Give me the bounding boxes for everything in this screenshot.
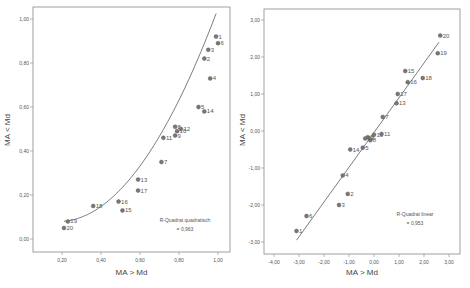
x-tick-label: 3,00 [444, 259, 454, 265]
point-label: 12 [183, 126, 190, 132]
point-label: 7 [385, 114, 389, 120]
x-tick-label: 1,00 [394, 259, 404, 265]
data-point [406, 80, 410, 84]
chart-1: 0,200,400,600,801,000,000,200,400,600,80… [3, 7, 230, 277]
data-point [346, 192, 350, 196]
x-tick-label: 0,40 [96, 257, 106, 263]
point-label: 3 [342, 202, 346, 208]
point-label: 18 [96, 203, 103, 209]
x-tick-label: 0,00 [369, 259, 379, 265]
point-label: 1 [299, 228, 303, 234]
y-tick-label: 0,40 [19, 148, 29, 154]
r-squared-label: R-Quadrat linear [397, 211, 434, 217]
point-label: 12 [368, 135, 375, 141]
data-point [337, 203, 341, 207]
x-axis-label: MA > Md [346, 268, 378, 277]
r-squared-label: R-Quadrat quadratisch [160, 217, 211, 223]
point-label: 7 [164, 159, 168, 165]
point-label: 5 [365, 145, 369, 151]
r-squared-value: = 0,953 [407, 220, 424, 226]
y-tick-label: 0,00 [250, 128, 260, 134]
point-label: 2 [350, 191, 354, 197]
data-point [206, 48, 210, 52]
x-tick-label: -2,00 [318, 259, 330, 265]
data-point [173, 134, 177, 138]
data-point [363, 136, 367, 140]
r-squared-value: = 0,963 [177, 226, 194, 232]
x-axis-label: MA > Md [116, 268, 148, 277]
point-label: 4 [345, 172, 349, 178]
point-label: 2 [207, 56, 211, 62]
data-point [117, 200, 121, 204]
y-tick-label: -1,00 [249, 165, 261, 171]
plot-frame [264, 9, 460, 254]
x-tick-label: -1,00 [343, 259, 355, 265]
point-label: 17 [400, 91, 407, 97]
y-tick-label: 0,00 [19, 236, 29, 242]
y-tick-label: 2,00 [250, 54, 260, 60]
point-label: 11 [384, 131, 391, 137]
point-label: 16 [121, 199, 128, 205]
point-label: 20 [66, 225, 73, 231]
data-point [396, 92, 400, 96]
y-tick-label: 1,00 [19, 16, 29, 22]
point-label: 17 [141, 188, 148, 194]
plot-frame [33, 7, 230, 252]
data-point [438, 34, 442, 38]
point-label: 15 [125, 207, 132, 213]
data-point [202, 109, 206, 113]
data-point [91, 204, 95, 208]
data-point [295, 229, 299, 233]
data-point [381, 115, 385, 119]
data-point [421, 76, 425, 80]
point-label: 1 [219, 34, 223, 40]
data-point [179, 127, 183, 131]
data-point [62, 226, 66, 230]
y-tick-label: 0,20 [19, 192, 29, 198]
data-point [214, 35, 218, 39]
data-point [175, 129, 179, 133]
y-axis-label: MA < Md [3, 114, 12, 146]
point-label: 13 [399, 100, 406, 106]
point-label: 3 [211, 47, 215, 53]
y-tick-label: 1,00 [250, 91, 260, 97]
data-point [348, 148, 352, 152]
data-point [361, 146, 365, 150]
x-tick-label: 1,00 [213, 257, 223, 263]
x-tick-label: 0,60 [135, 257, 145, 263]
y-tick-label: 0,80 [19, 60, 29, 66]
data-point [380, 132, 384, 136]
point-label: 15 [408, 68, 415, 74]
point-label: 19 [70, 218, 77, 224]
data-point [403, 69, 407, 73]
point-label: 20 [443, 33, 450, 39]
point-label: 13 [141, 177, 148, 183]
data-point [66, 219, 70, 223]
y-tick-label: 3,00 [250, 17, 260, 23]
data-point [436, 51, 440, 55]
data-point [216, 41, 220, 45]
data-point [341, 173, 345, 177]
point-label: 4 [213, 75, 217, 81]
point-label: 11 [166, 135, 173, 141]
x-tick-label: -4,00 [268, 259, 280, 265]
point-label: 5 [201, 104, 205, 110]
data-point [159, 160, 163, 164]
x-tick-label: 0,80 [174, 257, 184, 263]
y-tick-label: 0,60 [19, 104, 29, 110]
y-axis-label: MA < Md [238, 114, 247, 146]
x-tick-label: -3,00 [293, 259, 305, 265]
data-point [208, 76, 212, 80]
point-label: 6 [221, 40, 225, 46]
x-tick-label: 0,20 [57, 257, 67, 263]
data-point [173, 125, 177, 129]
data-point [136, 189, 140, 193]
data-point [136, 178, 140, 182]
x-tick-label: 2,00 [419, 259, 429, 265]
data-point [120, 208, 124, 212]
y-tick-label: -3,00 [249, 239, 261, 245]
y-tick-label: -2,00 [249, 202, 261, 208]
chart-2: -4,00-3,00-2,00-1,000,001,002,003,00-3,0… [238, 9, 460, 277]
point-label: 14 [207, 108, 214, 114]
data-point [395, 101, 399, 105]
